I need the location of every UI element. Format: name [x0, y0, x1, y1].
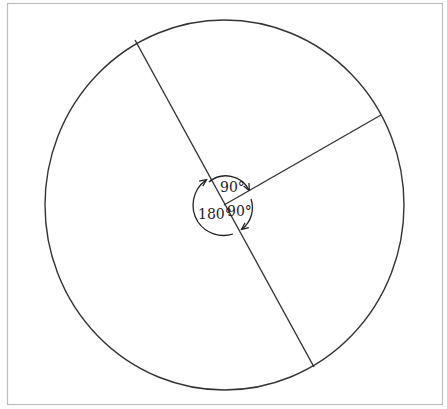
- angle-label-left: 180°: [198, 206, 232, 222]
- angle-label-top: 90°: [220, 179, 245, 195]
- circle-angle-diagram: 90° 90° 180°: [0, 0, 447, 409]
